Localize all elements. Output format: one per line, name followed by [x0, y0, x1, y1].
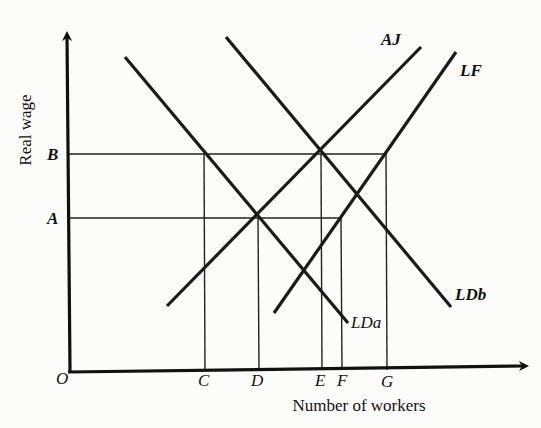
x-tick-F: F	[336, 371, 348, 390]
curve-LDa	[125, 57, 348, 323]
guide-line-E	[321, 154, 322, 370]
x-tick-C: C	[198, 371, 210, 390]
labour-market-diagram: Real wage Number of workers O B A C D E …	[0, 0, 541, 428]
y-tick-B: B	[46, 145, 58, 164]
guide-line-D	[258, 218, 259, 370]
guide-line-C	[204, 154, 205, 370]
x-axis	[68, 366, 524, 372]
x-tick-G: G	[381, 372, 393, 391]
x-axis-title: Number of workers	[292, 396, 425, 415]
curve-LF	[274, 52, 456, 313]
y-axis	[67, 36, 70, 371]
curve-LDb	[226, 37, 451, 307]
guide-line-G	[386, 154, 387, 370]
x-tick-E: E	[314, 371, 326, 390]
curve-AJ	[167, 47, 421, 306]
curve-label-LF: LF	[459, 61, 482, 80]
curve-label-LDb: LDb	[454, 285, 486, 304]
curve-label-LDa: LDa	[350, 313, 381, 332]
guide-line-F	[341, 218, 342, 370]
origin-label: O	[56, 369, 68, 388]
y-tick-A: A	[46, 209, 58, 228]
curve-label-AJ: AJ	[380, 30, 401, 49]
y-axis-title: Real wage	[16, 94, 35, 165]
x-tick-D: D	[250, 371, 264, 390]
